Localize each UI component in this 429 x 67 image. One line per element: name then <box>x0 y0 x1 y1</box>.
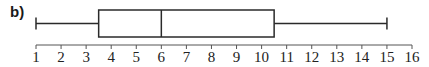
tick-label: 2 <box>57 49 65 65</box>
tick-label: 4 <box>107 49 115 65</box>
tick-label: 5 <box>133 49 141 65</box>
tick-label: 6 <box>158 49 166 65</box>
x-axis: 12345678910111213141516 <box>32 45 420 65</box>
tick-label: 12 <box>304 49 319 65</box>
tick-label: 10 <box>254 49 269 65</box>
tick-label: 1 <box>32 49 40 65</box>
tick-label: 8 <box>208 49 216 65</box>
tick-label: 13 <box>329 49 344 65</box>
tick-label: 9 <box>233 49 241 65</box>
tick-label: 15 <box>379 49 394 65</box>
tick-label: 14 <box>354 49 370 65</box>
tick-label: 11 <box>279 49 293 65</box>
tick-label: 3 <box>82 49 90 65</box>
tick-label: 7 <box>183 49 191 65</box>
iqr-box <box>99 10 274 37</box>
box-plot <box>36 10 387 37</box>
box-plot-chart: 12345678910111213141516 <box>0 0 429 67</box>
tick-label: 16 <box>405 49 421 65</box>
